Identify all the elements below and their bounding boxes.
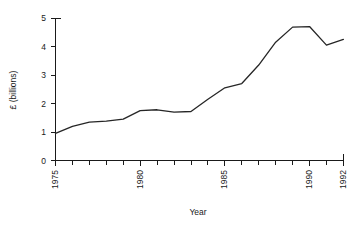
x-tick-label-1985: 1985 [219, 170, 229, 189]
y-tick-label-3: 3 [41, 70, 46, 80]
data-series-expenditure [56, 27, 344, 134]
y-tick-label-2: 2 [41, 99, 46, 109]
chart-figure: £ (billions) Year 0 1 2 3 4 5 [0, 0, 361, 228]
y-axis-title: £ (billions) [8, 70, 18, 109]
x-tick-label-1992: 1992 [338, 170, 348, 189]
x-axis-title: Year [189, 207, 206, 217]
y-tick-label-4: 4 [41, 42, 46, 52]
y-tick-label-5: 5 [41, 13, 46, 23]
y-tick-label-1: 1 [41, 127, 46, 137]
x-axis-ticks [56, 161, 344, 167]
line-chart-svg: £ (billions) Year 0 1 2 3 4 5 [0, 0, 361, 228]
y-axis-ticks: 0 1 2 3 4 5 [41, 13, 55, 166]
x-tick-label-1990: 1990 [304, 170, 314, 189]
x-tick-label-1975: 1975 [50, 170, 60, 189]
y-tick-label-0: 0 [41, 156, 46, 166]
x-axis-tick-labels: 1975 1980 1985 1990 1992 [50, 170, 348, 189]
x-tick-label-1980: 1980 [135, 170, 145, 189]
